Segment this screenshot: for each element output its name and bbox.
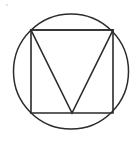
triangle-shape [31, 30, 113, 113]
geometry-diagram: Circle with inscribed square and inverte… [0, 0, 140, 145]
speck-artifact [6, 4, 8, 6]
figure-canvas: Circle with inscribed square and inverte… [0, 0, 140, 145]
square-shape [31, 30, 113, 113]
